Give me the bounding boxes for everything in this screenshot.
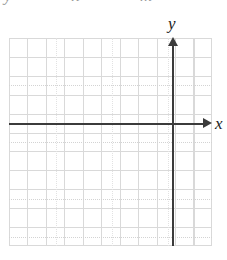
y-axis-arrow-icon <box>168 37 178 46</box>
clipped-glyph-m: m <box>140 0 152 4</box>
x-axis-line <box>9 123 205 125</box>
x-axis-label: x <box>215 115 223 132</box>
x-axis-arrow-icon <box>203 118 212 128</box>
grid-area <box>9 38 212 246</box>
grid-dotted-line-vertical <box>168 38 169 246</box>
grid-dotted-line-horizontal <box>9 85 212 86</box>
clipped-glyph-y: y <box>4 0 12 4</box>
coordinate-grid-figure: y x m y x <box>0 0 227 260</box>
grid-dotted-line-vertical <box>112 38 113 246</box>
clipped-glyph-x: x <box>72 0 80 4</box>
y-axis-label: y <box>168 15 176 32</box>
grid-dotted-line-horizontal <box>9 142 212 143</box>
y-axis-line <box>172 45 174 246</box>
grid-dotted-line-vertical <box>56 38 57 246</box>
clipped-text-row: y x m <box>0 0 227 11</box>
grid-dotted-line-horizontal <box>9 237 212 238</box>
grid-dotted-line-horizontal <box>9 199 212 200</box>
